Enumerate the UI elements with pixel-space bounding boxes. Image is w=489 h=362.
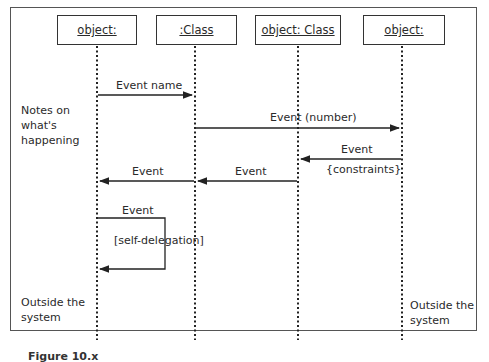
note-line: what's: [21, 118, 79, 133]
note-line: Outside the: [410, 298, 474, 313]
note-line: system: [21, 310, 85, 325]
message-label: Event: [122, 203, 154, 218]
note-line: system: [410, 313, 474, 328]
figure-caption: Figure 10.x: [28, 350, 98, 362]
message-label: Event: [132, 164, 164, 179]
message-guard: [self-delegation]: [114, 233, 204, 248]
note-line: happening: [21, 133, 79, 148]
message-guard: {constraints}: [326, 162, 401, 177]
message-label: Event (number): [270, 110, 357, 125]
message-label: Event: [235, 164, 267, 179]
message-label: Event: [341, 142, 373, 157]
message-label: Event name: [116, 78, 182, 93]
note-left-top: Notes on what's happening: [21, 103, 79, 148]
note-line: Outside the: [21, 295, 85, 310]
note-left-bottom: Outside the system: [21, 295, 85, 325]
note-line: Notes on: [21, 103, 79, 118]
note-right-bottom: Outside the system: [410, 298, 474, 328]
